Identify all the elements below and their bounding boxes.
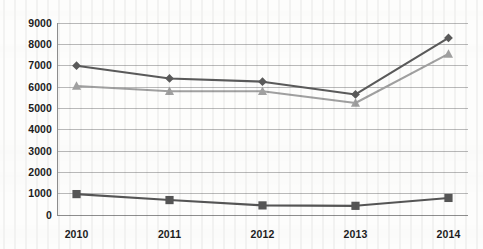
- x-tick-label: 2010: [65, 229, 89, 240]
- line-chart: 9000800070006000500040003000200010000 20…: [0, 0, 483, 249]
- x-axis-tick-labels: 20102011201220132014: [0, 0, 483, 249]
- x-tick-label: 2014: [437, 229, 461, 240]
- x-tick-label: 2012: [251, 229, 275, 240]
- x-tick-label: 2013: [344, 229, 368, 240]
- x-tick-label: 2011: [158, 229, 181, 240]
